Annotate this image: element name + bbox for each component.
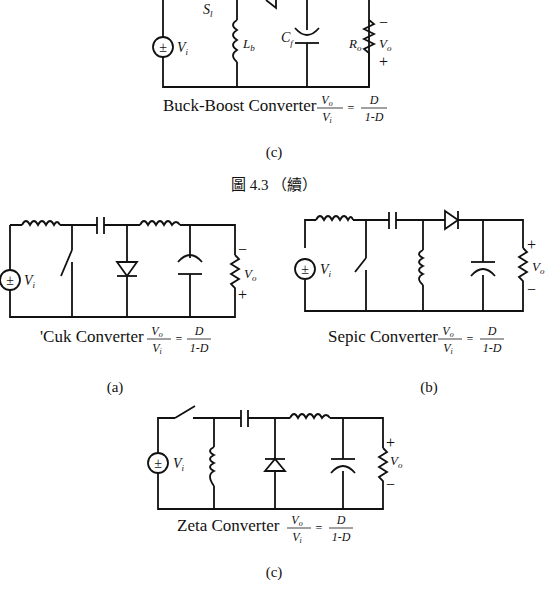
svg-text:Vi: Vi (24, 273, 36, 290)
svg-text:+: + (386, 434, 395, 451)
diode-icon (117, 262, 137, 276)
coupling-capacitor-icon (241, 410, 248, 427)
coupling-capacitor-icon (97, 217, 104, 234)
inductor-icon (316, 216, 353, 220)
svg-text:±: ± (301, 262, 309, 277)
svg-text:D: D (336, 513, 346, 527)
svg-text:Vi: Vi (152, 341, 162, 356)
svg-text:1-D: 1-D (483, 341, 502, 355)
buck-boost-sublabel: (c) (266, 144, 283, 161)
zeta-circuit: ± Vi Vo + − (148, 406, 403, 509)
svg-text:D: D (194, 324, 204, 338)
sepic-title: Sepic Converter (328, 327, 438, 346)
cuk-sublabel: (a) (107, 379, 124, 396)
svg-text:1-D: 1-D (332, 530, 351, 544)
svg-text:+: + (379, 53, 388, 70)
switch-icon (61, 250, 72, 276)
capacitor-icon (295, 28, 319, 43)
svg-text:Vo: Vo (532, 259, 545, 276)
svg-text:Vo: Vo (321, 93, 332, 108)
voltage-source-icon: ± (153, 37, 173, 57)
cuk-circuit: ± Vi Vo − + (0, 217, 257, 317)
inductor-icon (419, 250, 423, 285)
inductor-icon (290, 414, 330, 418)
zeta-sublabel: (c) (266, 564, 283, 581)
cuk-formula: Vo Vi = D 1-D (147, 324, 211, 356)
zeta-formula: Vo Vi = D 1-D (287, 513, 353, 545)
switch-label: Sl (203, 2, 213, 19)
buck-boost-title: Buck-Boost Converter (163, 96, 317, 115)
cuk-title: 'Cuk Converter (40, 327, 144, 346)
svg-text:Lb: Lb (242, 36, 255, 53)
svg-text:Cf: Cf (281, 30, 294, 48)
buck-boost-circuit: ± Sl Vi Lb Cf Ro Vo − + (153, 0, 392, 87)
svg-text:+: + (238, 286, 247, 303)
svg-text:Vi: Vi (173, 456, 185, 473)
coupling-capacitor-icon (389, 212, 396, 229)
svg-text:+: + (527, 236, 536, 253)
diode-icon (265, 459, 285, 471)
sepic-circuit: ± Vi Vo + − (295, 211, 545, 311)
svg-text:Vo: Vo (244, 266, 257, 283)
svg-text:1-D: 1-D (190, 341, 209, 355)
zeta-title: Zeta Converter (177, 516, 280, 535)
svg-text:Vi: Vi (292, 530, 302, 545)
svg-text:−: − (379, 14, 388, 31)
svg-text:Vo: Vo (390, 453, 403, 470)
svg-text:Vo: Vo (291, 513, 302, 528)
sepic-sublabel: (b) (420, 379, 438, 396)
svg-text:−: − (527, 281, 536, 298)
svg-text:=: = (316, 521, 323, 535)
svg-text:±: ± (159, 40, 167, 55)
svg-text:D: D (487, 324, 497, 338)
svg-text:D: D (369, 93, 379, 107)
svg-text:Vi: Vi (322, 110, 332, 125)
svg-text:=: = (467, 332, 474, 346)
converter-diagrams: ± Sl Vi Lb Cf Ro Vo − + Buck-Boost Conve… (0, 0, 549, 589)
svg-text:Vi: Vi (443, 341, 453, 356)
svg-text:−: − (238, 241, 247, 258)
inductor-icon (22, 221, 60, 225)
inductor-icon (233, 20, 237, 62)
diode-fragment-icon (266, 0, 276, 8)
svg-text:Vi: Vi (320, 262, 332, 279)
diode-icon (445, 211, 458, 229)
svg-text:=: = (348, 101, 355, 115)
voltage-source-icon: ± (295, 259, 315, 279)
inductor-icon (210, 447, 214, 486)
svg-text:Vo: Vo (379, 36, 392, 53)
svg-text:±: ± (6, 273, 14, 288)
svg-text:=: = (176, 332, 183, 346)
svg-text:±: ± (154, 456, 162, 471)
inductor-icon (140, 221, 180, 225)
voltage-source-icon: ± (0, 270, 20, 290)
capacitor-icon (471, 262, 495, 276)
capacitor-icon (331, 459, 355, 473)
switch-icon (355, 258, 366, 272)
sepic-formula: Vo Vi = D 1-D (438, 324, 504, 356)
switch-icon (175, 406, 195, 418)
svg-text:Vi: Vi (177, 40, 189, 57)
svg-text:Vo: Vo (151, 324, 162, 339)
voltage-source-icon: ± (148, 453, 168, 473)
svg-text:1-D: 1-D (365, 110, 384, 124)
svg-text:−: − (386, 476, 395, 493)
svg-text:Ro: Ro (348, 36, 362, 53)
svg-text:Vo: Vo (442, 324, 453, 339)
figure-caption: 圖 4.3 （續） (231, 177, 317, 193)
resistor-icon (519, 248, 527, 290)
buck-boost-formula: Vo Vi = D 1-D (317, 93, 387, 125)
